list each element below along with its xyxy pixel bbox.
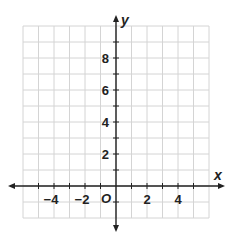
x-tick-label: −4	[44, 192, 60, 207]
axes	[8, 15, 225, 232]
y-tick-label: 6	[102, 83, 109, 98]
x-tick-label: 2	[143, 192, 150, 207]
x-axis-right-arrow-icon	[218, 183, 225, 189]
x-tick-label: 4	[174, 192, 182, 207]
x-tick-label: −2	[75, 192, 90, 207]
y-axis-up-arrow-icon	[113, 15, 119, 22]
y-axis-label: y	[120, 12, 130, 28]
y-tick-label: 8	[102, 51, 109, 66]
y-tick-label: 4	[102, 115, 110, 130]
coordinate-plane: −4−2242468Oxy	[0, 0, 233, 240]
y-tick-label: 2	[102, 147, 109, 162]
x-axis-label: x	[213, 167, 223, 183]
tick-labels: −4−2242468Oxy	[44, 12, 224, 207]
origin-label: O	[101, 191, 111, 206]
y-axis-down-arrow-icon	[113, 225, 119, 232]
x-axis-left-arrow-icon	[8, 183, 15, 189]
